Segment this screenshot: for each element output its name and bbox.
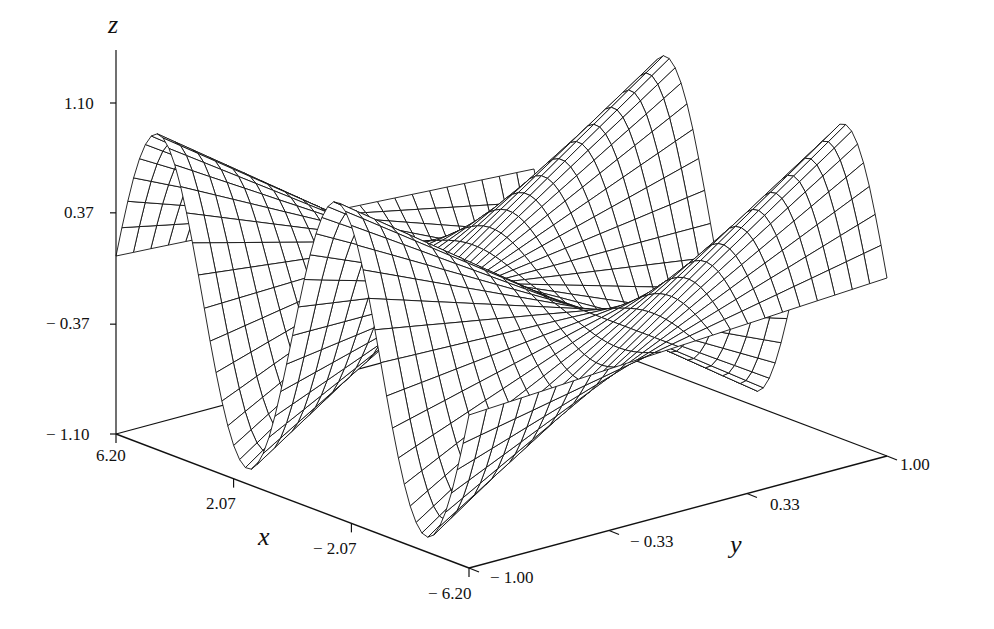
x-tick-label: − 2.07 bbox=[313, 540, 357, 557]
y-axis-line bbox=[469, 456, 887, 568]
wireframe-surface bbox=[116, 56, 887, 538]
x-tick-label: 6.20 bbox=[96, 447, 126, 464]
y-tick-label: 1.00 bbox=[900, 456, 930, 473]
y-tick-label: − 1.00 bbox=[490, 569, 534, 586]
y-tick-mark bbox=[469, 568, 479, 572]
x-tick-label: − 6.20 bbox=[428, 585, 472, 602]
y-tick-mark bbox=[747, 494, 757, 498]
y-tick-label: − 0.33 bbox=[630, 533, 674, 550]
y-axis-label: y bbox=[730, 532, 742, 558]
z-tick-label: − 1.10 bbox=[46, 426, 90, 443]
surface-plot-figure: z x y 1.10 0.37 − 0.37 − 1.10 6.20 2.07 … bbox=[0, 0, 994, 629]
z-tick-label: 0.37 bbox=[64, 204, 94, 221]
x-axis-label: x bbox=[258, 524, 270, 550]
z-tick-label: 1.10 bbox=[64, 95, 94, 112]
y-tick-label: 0.33 bbox=[770, 496, 800, 513]
y-tick-mark bbox=[887, 456, 897, 460]
y-tick-mark bbox=[609, 530, 619, 534]
z-tick-label: − 0.37 bbox=[46, 315, 90, 332]
surface-plot-canvas bbox=[0, 0, 994, 629]
z-axis-label: z bbox=[108, 12, 118, 38]
x-tick-label: 2.07 bbox=[206, 495, 236, 512]
